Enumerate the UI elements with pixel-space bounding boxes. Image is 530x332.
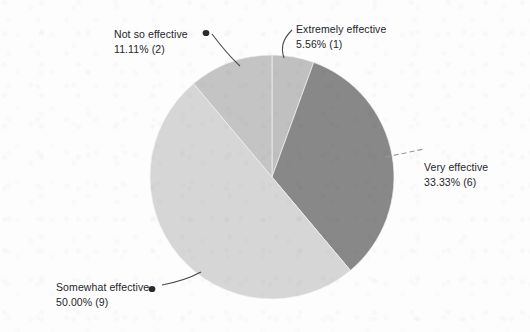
- slice-label-extremely-effective-name: Extremely effective: [296, 22, 386, 37]
- ink-blob-lower-left: [149, 286, 156, 292]
- slice-label-not-so-effective-name: Not so effective: [114, 27, 188, 42]
- slice-label-somewhat-effective-value: 50.00% (9): [56, 295, 149, 310]
- slice-label-extremely-effective-value: 5.56% (1): [296, 37, 386, 52]
- ink-blob-upper-left: [203, 30, 210, 36]
- leader-line-extremely-effective: [282, 30, 292, 58]
- slice-label-somewhat-effective-name: Somewhat effective: [56, 280, 149, 295]
- slice-label-not-so-effective-value: 11.11% (2): [114, 42, 188, 57]
- slice-label-somewhat-effective: Somewhat effective 50.00% (9): [56, 280, 149, 309]
- slice-label-not-so-effective: Not so effective 11.11% (2): [114, 27, 188, 56]
- slice-label-very-effective-name: Very effective: [424, 160, 488, 175]
- slice-label-very-effective-value: 33.33% (6): [424, 175, 488, 190]
- pie-slices: [150, 55, 394, 299]
- leader-line-somewhat-effective: [162, 272, 201, 285]
- slice-label-very-effective: Very effective 33.33% (6): [424, 160, 488, 189]
- slice-label-extremely-effective: Extremely effective 5.56% (1): [296, 22, 386, 51]
- pie-chart-figure: Extremely effective 5.56% (1) Not so eff…: [0, 0, 530, 332]
